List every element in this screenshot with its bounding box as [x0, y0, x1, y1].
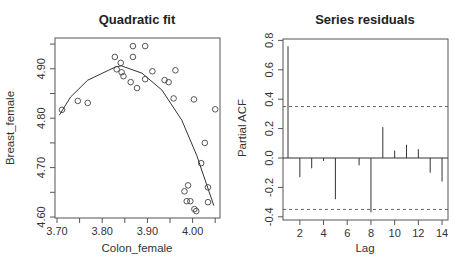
data-point — [112, 54, 118, 60]
pacf-panel: Series residuals 2468101214 -0.4-0.20.00… — [232, 0, 463, 264]
pacf-chart: Series residuals 2468101214 -0.4-0.20.00… — [232, 0, 463, 264]
data-point — [212, 107, 218, 113]
y-tick-label: 4.80 — [35, 107, 47, 128]
x-tick-label: 2 — [297, 227, 303, 239]
quadratic-fit-panel: Quadratic fit 3.703.803.904.00 4.604.704… — [0, 0, 232, 264]
x-axis-label: Lag — [355, 242, 374, 254]
data-point — [130, 54, 136, 60]
x-tick-label: 8 — [368, 227, 374, 239]
data-point — [188, 198, 194, 204]
data-point — [205, 199, 211, 205]
y-axis: 4.604.704.804.90 — [35, 44, 55, 228]
data-point — [75, 98, 81, 104]
x-tick-label: 3.70 — [46, 225, 67, 237]
x-tick-label: 3.90 — [137, 225, 158, 237]
x-tick-label: 10 — [389, 227, 401, 239]
data-point — [150, 68, 156, 74]
y-tick-label: 4.60 — [35, 206, 47, 227]
y-tick-label: 0.4 — [263, 92, 275, 107]
data-point — [171, 96, 177, 102]
chart-title: Series residuals — [315, 12, 415, 27]
y-tick-label: 4.70 — [35, 157, 47, 178]
chart-title: Quadratic fit — [99, 12, 176, 27]
data-point — [134, 85, 140, 91]
y-tick-label: -0.4 — [263, 207, 275, 226]
x-tick-label: 4.00 — [182, 225, 203, 237]
scatter-points — [59, 43, 218, 214]
data-point — [85, 100, 91, 106]
y-tick-label: 4.90 — [35, 58, 47, 79]
quadratic-fit-chart: Quadratic fit 3.703.803.904.00 4.604.704… — [0, 0, 232, 264]
data-point — [128, 79, 134, 85]
x-tick-label: 3.80 — [91, 225, 112, 237]
data-point — [173, 67, 179, 73]
data-point — [202, 140, 208, 146]
x-tick-label: 6 — [344, 227, 350, 239]
pacf-stems — [288, 46, 442, 212]
y-tick-label: -0.2 — [263, 178, 275, 197]
y-tick-label: 0.8 — [263, 33, 275, 48]
y-tick-label: 0.2 — [263, 121, 275, 136]
x-tick-label: 14 — [436, 227, 448, 239]
y-tick-label: 0.0 — [263, 150, 275, 165]
x-tick-label: 4 — [320, 227, 326, 239]
x-axis: 3.703.803.904.00 — [46, 218, 215, 237]
plot-frame — [283, 39, 448, 220]
x-axis-label: Colon_female — [102, 242, 173, 254]
plot-frame — [55, 38, 220, 218]
data-point — [182, 189, 188, 195]
data-point — [191, 97, 197, 103]
x-tick-label: 12 — [412, 227, 424, 239]
y-axis: -0.4-0.20.00.20.40.60.8 — [263, 33, 283, 227]
y-axis-label: Breast_female — [4, 91, 16, 165]
y-tick-label: 0.6 — [263, 62, 275, 77]
y-axis-label: Partial ACF — [236, 99, 248, 157]
data-point — [118, 60, 124, 66]
data-point — [142, 43, 148, 49]
x-axis: 2468101214 — [297, 220, 448, 239]
data-point — [142, 76, 148, 82]
data-point — [130, 43, 136, 49]
data-point — [185, 183, 191, 189]
